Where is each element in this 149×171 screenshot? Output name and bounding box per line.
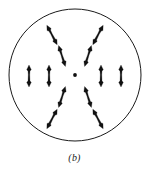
glyph-outer-left [27, 65, 32, 87]
glyph-inner-right [99, 65, 104, 87]
glyph-outer-top-right [91, 24, 105, 46]
glyph-outer-bottom-right [91, 108, 105, 130]
glyph-inner-top-right [82, 45, 93, 67]
center-dot [73, 73, 77, 77]
glyph-inner-left [47, 65, 52, 87]
figure-drawing [0, 0, 149, 171]
glyph-inner-top-left [56, 45, 67, 67]
figure-caption: (b) [0, 151, 149, 165]
glyph-outer-bottom-left [45, 108, 59, 130]
glyph-inner-bottom-left [56, 86, 67, 108]
glyph-outer-right [119, 65, 124, 87]
glyph-inner-bottom-right [82, 86, 93, 108]
figure-container: (b) [0, 0, 149, 171]
glyph-outer-top-left [45, 24, 59, 46]
